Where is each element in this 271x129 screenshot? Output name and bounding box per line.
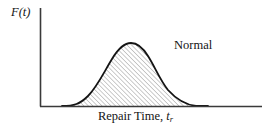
normal-distribution-repair-time-figure: F(t) Repair Time, tr Normal: [0, 0, 271, 129]
y-axis-label: F(t): [11, 6, 30, 19]
x-axis-label: Repair Time, tr: [0, 110, 271, 123]
series-label-normal: Normal: [174, 38, 212, 53]
x-axis-label-subscript: r: [170, 114, 173, 124]
x-axis-label-text: Repair Time,: [98, 109, 166, 123]
